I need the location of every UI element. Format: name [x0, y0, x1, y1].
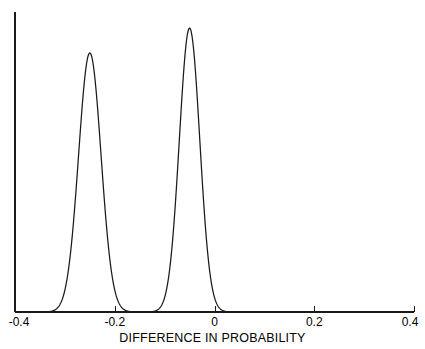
x-axis-tick-marks — [16, 306, 415, 312]
x-axis-title: DIFFERENCE IN PROBABILITY — [0, 332, 425, 345]
x-axis-tick-label: -0.2 — [104, 316, 125, 328]
chart-plot-area — [0, 0, 425, 349]
density-curve-left — [38, 53, 141, 312]
x-axis-tick-label: 0.4 — [402, 316, 419, 328]
axes-group — [15, 12, 415, 312]
x-axis-tick-label: 0.2 — [306, 316, 323, 328]
x-axis-tick-label: -0.4 — [9, 316, 30, 328]
density-curves-group — [38, 28, 236, 312]
x-axis-tick-label: 0 — [211, 316, 218, 328]
density-curve-right — [143, 28, 237, 312]
chart-figure: -0.4-0.200.20.4 DIFFERENCE IN PROBABILIT… — [0, 0, 425, 349]
